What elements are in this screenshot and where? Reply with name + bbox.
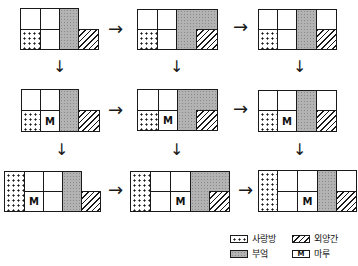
arrow-right-icon: → <box>108 181 123 199</box>
room-cell <box>258 9 278 30</box>
kitchen-cell <box>59 89 79 132</box>
legend-item-stable: 외양간 <box>292 232 338 245</box>
stable-cell <box>336 191 357 212</box>
room-cell <box>21 89 41 111</box>
arrow-right-icon: → <box>108 101 123 119</box>
room-cell <box>258 90 278 111</box>
sarangbang-cell <box>21 110 41 132</box>
sarangbang-cell <box>258 110 278 132</box>
room-cell <box>150 191 171 212</box>
legend-label: 부엌 <box>252 247 268 260</box>
gray-pattern-icon <box>230 250 248 258</box>
room-cell <box>20 8 41 30</box>
room-cell <box>40 89 60 111</box>
sarangbang-cell <box>130 171 151 212</box>
legend-label: 사랑방 <box>252 232 276 245</box>
kitchen-cell <box>59 8 79 50</box>
kitchen-cell <box>296 90 317 132</box>
legend-label: 외양간 <box>314 232 338 245</box>
stable-cell <box>81 191 101 212</box>
maru-symbol-icon: M <box>292 250 310 258</box>
sarangbang-cell <box>137 29 158 50</box>
maru-cell: M <box>277 110 297 132</box>
maru-cell: M <box>158 110 178 131</box>
maru-cell: M <box>24 191 44 212</box>
room-cell <box>40 8 60 30</box>
sarangbang-cell <box>4 171 25 212</box>
kitchen-cell <box>62 171 82 212</box>
kitchen-cell <box>317 170 337 212</box>
stable-cell <box>316 29 337 50</box>
sarangbang-cell <box>258 170 278 212</box>
room-cell <box>297 170 318 192</box>
arrow-right-icon: → <box>108 20 123 38</box>
room-cell <box>24 171 44 192</box>
arrow-down-icon: ↓ <box>293 58 306 76</box>
room-cell <box>316 9 337 30</box>
sarangbang-cell <box>137 110 159 131</box>
room-cell <box>158 89 178 111</box>
room-cell <box>137 89 159 111</box>
dots-pattern-icon <box>230 235 248 243</box>
stable-cell <box>196 110 218 131</box>
arrow-down-icon: ↓ <box>293 141 306 159</box>
sarangbang-cell <box>258 29 278 50</box>
room-cell <box>43 171 63 192</box>
arrow-down-icon: ↓ <box>53 58 66 76</box>
maru-cell: M <box>170 191 191 212</box>
room-cell <box>170 171 191 192</box>
room-cell <box>157 9 177 30</box>
arrow-right-icon: → <box>233 100 248 118</box>
room-cell <box>336 170 357 192</box>
legend-item-maru: M 마루 <box>292 247 330 260</box>
stable-cell <box>209 191 230 212</box>
legend-label: 마루 <box>314 247 330 260</box>
maru-cell: M <box>297 191 318 212</box>
arrow-down-icon: ↓ <box>170 58 183 76</box>
arrow-right-icon: → <box>233 18 248 36</box>
sarangbang-cell <box>20 29 41 50</box>
room-cell <box>277 191 298 212</box>
room-cell <box>277 90 297 111</box>
arrow-down-icon: ↓ <box>55 141 68 159</box>
arrow-down-icon: ↓ <box>170 141 183 159</box>
maru-cell: M <box>40 110 60 132</box>
legend-item-kitchen: 부엌 <box>230 247 268 260</box>
kitchen-cell <box>296 9 317 50</box>
hatch-pattern-icon <box>292 235 310 243</box>
room-cell <box>43 191 63 212</box>
arrow-right-icon: → <box>238 181 253 199</box>
room-cell <box>277 9 297 30</box>
stable-cell <box>316 110 337 132</box>
stable-cell <box>78 110 100 132</box>
legend-item-sarangbang: 사랑방 <box>230 232 276 245</box>
room-cell <box>137 9 158 30</box>
room-cell <box>157 29 177 50</box>
room-cell <box>150 171 171 192</box>
room-cell <box>40 29 60 50</box>
stable-cell <box>78 29 99 50</box>
room-cell <box>277 170 298 192</box>
room-cell <box>277 29 297 50</box>
stable-cell <box>196 29 218 50</box>
room-cell <box>316 90 337 111</box>
